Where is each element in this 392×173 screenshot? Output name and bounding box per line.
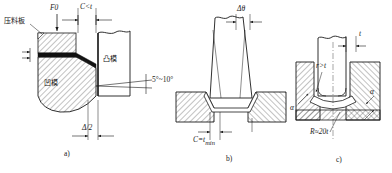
label-thickness-t: t	[359, 30, 361, 38]
label-angle-5-10: 5°~10°	[152, 76, 173, 84]
label-blank-holder: 压料板	[4, 18, 25, 25]
panel-caption-c: c)	[336, 156, 342, 164]
label-force-f0: F0	[50, 4, 58, 12]
label-die-concave: 凹模	[44, 80, 58, 87]
figure-root: 压料板 F0 C<t 凹模 凸模 5°~10° Δ/2 a) Δθ C=tmin…	[0, 0, 392, 173]
label-clearance-c-eq-tmin: C=tmin	[193, 136, 215, 146]
label-radius-r-gt-t: r>t	[316, 62, 326, 70]
panel-a-geometry	[22, 8, 152, 140]
label-delta-half: Δ/2	[82, 124, 92, 132]
panel-b-geometry	[176, 14, 286, 140]
label-punch-convex: 凸模	[103, 56, 117, 63]
label-clearance-c-lt-t: C<t	[80, 3, 92, 11]
label-radius-r-20t: R≈20t	[310, 128, 328, 136]
label-delta-theta: Δθ	[237, 5, 245, 13]
panel-c-geometry	[296, 36, 380, 140]
diagram-vector	[0, 0, 392, 173]
panel-caption-b: b)	[226, 155, 232, 163]
panel-caption-a: a)	[64, 150, 70, 158]
label-alpha-left: α	[290, 104, 294, 112]
label-alpha-right: α	[370, 88, 374, 96]
label-tmin-subscript: min	[205, 139, 215, 146]
